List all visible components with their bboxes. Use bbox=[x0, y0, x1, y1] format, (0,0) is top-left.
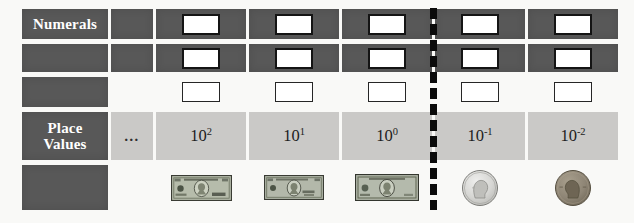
row3-hundreds-cell bbox=[156, 77, 246, 107]
place-value-label: 100 bbox=[376, 126, 398, 146]
numerals-tens-cell bbox=[249, 9, 339, 39]
place-value-cell-10e1: 101 bbox=[249, 112, 339, 160]
pv-exponent: 2 bbox=[207, 126, 212, 137]
money-ones-cell bbox=[342, 165, 432, 210]
numerals-label: Numerals bbox=[33, 16, 97, 33]
money-tenths-cell bbox=[435, 165, 525, 210]
pv-exponent: 0 bbox=[393, 126, 398, 137]
pv-base: 10 bbox=[190, 126, 207, 145]
dime-coin-icon bbox=[461, 169, 499, 207]
row2-tens-cell bbox=[249, 44, 339, 72]
money-hundredths-cell bbox=[528, 165, 618, 210]
place-value-cell-10e-1: 10-1 bbox=[435, 112, 525, 160]
answer-box bbox=[461, 48, 499, 69]
row3-hundredths-cell bbox=[528, 77, 618, 107]
pv-exponent: -1 bbox=[484, 126, 493, 137]
answer-box bbox=[554, 14, 592, 35]
place-value-table: Numerals bbox=[22, 9, 618, 210]
row2-header-cell bbox=[22, 44, 108, 72]
answer-box bbox=[461, 14, 499, 35]
row3-tenths-cell bbox=[435, 77, 525, 107]
row3-ellipsis-cell bbox=[111, 77, 153, 107]
answer-box bbox=[368, 14, 406, 35]
answer-box bbox=[368, 82, 406, 102]
row2-ellipsis-cell bbox=[111, 44, 153, 72]
answer-box bbox=[275, 82, 313, 102]
place-value-ellipsis-cell: … bbox=[111, 112, 153, 160]
ellipsis-label: … bbox=[124, 128, 141, 145]
penny-coin-icon bbox=[554, 169, 592, 207]
one-dollar-bill-icon bbox=[355, 174, 419, 201]
pv-base: 10 bbox=[560, 126, 577, 145]
place-value-cell-10e0: 100 bbox=[342, 112, 432, 160]
row3-header-cell bbox=[22, 77, 108, 107]
hundred-dollar-bill-icon bbox=[171, 175, 232, 201]
answer-box bbox=[275, 48, 313, 69]
row2-hundreds-cell bbox=[156, 44, 246, 72]
row2-tenths-cell bbox=[435, 44, 525, 72]
answer-box bbox=[368, 48, 406, 69]
answer-box bbox=[182, 82, 220, 102]
numerals-ellipsis-cell bbox=[111, 9, 153, 39]
place-value-label: 101 bbox=[283, 126, 305, 146]
money-header-cell bbox=[22, 165, 108, 210]
place-value-cell-10e-2: 10-2 bbox=[528, 112, 618, 160]
numerals-ones-cell bbox=[342, 9, 432, 39]
ten-dollar-bill-icon bbox=[264, 175, 324, 200]
money-tens-cell bbox=[249, 165, 339, 210]
answer-box bbox=[554, 82, 592, 102]
answer-box bbox=[182, 48, 220, 69]
row2-hundredths-cell bbox=[528, 44, 618, 72]
place-value-money-figure: Numerals bbox=[0, 0, 634, 223]
answer-box bbox=[554, 48, 592, 69]
place-value-label: 10-2 bbox=[560, 126, 585, 146]
numerals-tenths-cell bbox=[435, 9, 525, 39]
answer-box bbox=[461, 82, 499, 102]
answer-box bbox=[275, 14, 313, 35]
place-values-header-cell: Place Values bbox=[22, 112, 108, 160]
place-value-label: 102 bbox=[190, 126, 212, 146]
pv-exponent: -2 bbox=[577, 126, 586, 137]
numerals-hundreds-cell bbox=[156, 9, 246, 39]
numerals-hundredths-cell bbox=[528, 9, 618, 39]
answer-box bbox=[182, 14, 220, 35]
row2-ones-cell bbox=[342, 44, 432, 72]
numerals-header-cell: Numerals bbox=[22, 9, 108, 39]
place-value-label: 10-1 bbox=[467, 126, 492, 146]
row3-ones-cell bbox=[342, 77, 432, 107]
place-value-cell-10e2: 102 bbox=[156, 112, 246, 160]
pv-base: 10 bbox=[283, 126, 300, 145]
pv-base: 10 bbox=[376, 126, 393, 145]
pv-exponent: 1 bbox=[300, 126, 305, 137]
place-values-label: Place Values bbox=[37, 120, 93, 153]
row3-tens-cell bbox=[249, 77, 339, 107]
money-hundreds-cell bbox=[156, 165, 246, 210]
decimal-point-divider-line bbox=[430, 8, 437, 210]
money-ellipsis-cell bbox=[111, 165, 153, 210]
pv-base: 10 bbox=[467, 126, 484, 145]
